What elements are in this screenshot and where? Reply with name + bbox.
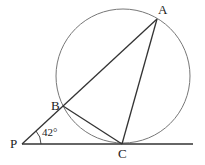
angle-label-P: 42°	[42, 126, 57, 138]
geometry-diagram: A B P C 42°	[0, 0, 205, 165]
point-label-P: P	[10, 136, 17, 151]
point-label-B: B	[51, 98, 60, 113]
point-label-A: A	[158, 2, 168, 17]
segment-AC	[122, 19, 157, 144]
point-label-C: C	[118, 146, 127, 161]
segment-BC	[63, 106, 122, 144]
circle	[56, 9, 190, 143]
angle-arc-P	[36, 131, 41, 144]
